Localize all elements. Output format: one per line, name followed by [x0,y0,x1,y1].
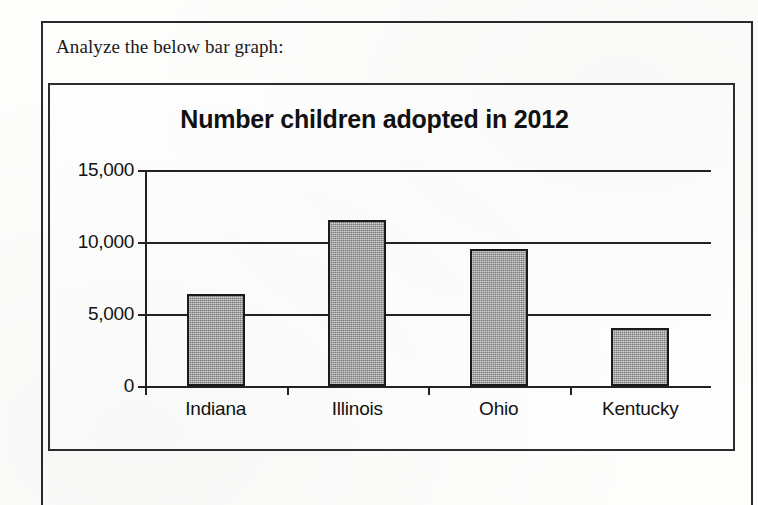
worksheet-page: Analyze the below bar graph: Number chil… [0,0,758,505]
x-tick-mark [145,386,147,395]
x-tick-mark [570,386,572,395]
page-border-left [41,21,43,505]
y-tick-label: 15,000 [78,159,134,181]
bar-illinois [328,220,386,386]
x-tick-mark [287,386,289,395]
gridline-15000 [145,170,711,172]
plot-area: 05,00010,00015,000 IndianaIllinoisOhioKe… [145,170,711,386]
page-border-right [751,21,753,505]
page-border-top [41,21,753,23]
bar-kentucky [611,328,669,386]
y-tick-mark-5000 [138,314,145,316]
y-tick-mark-15000 [138,170,145,172]
prompt-text: Analyze the below bar graph: [56,36,696,58]
gridline-10000 [145,242,711,244]
y-tick-label: 10,000 [78,231,134,253]
chart-title: Number children adopted in 2012 [50,105,737,134]
y-tick-mark-0 [138,386,145,388]
y-tick-label: 5,000 [88,303,134,325]
x-tick-mark [428,386,430,395]
category-label-indiana: Indiana [185,398,246,420]
y-axis-line [145,170,147,386]
y-tick-mark-10000 [138,242,145,244]
category-label-kentucky: Kentucky [602,398,679,420]
bar-ohio [470,249,528,386]
y-tick-label: 0 [124,375,134,397]
category-label-illinois: Illinois [332,398,383,420]
category-label-ohio: Ohio [479,398,518,420]
bar-indiana [187,294,245,386]
bar-chart: Number children adopted in 2012 05,00010… [48,83,735,451]
